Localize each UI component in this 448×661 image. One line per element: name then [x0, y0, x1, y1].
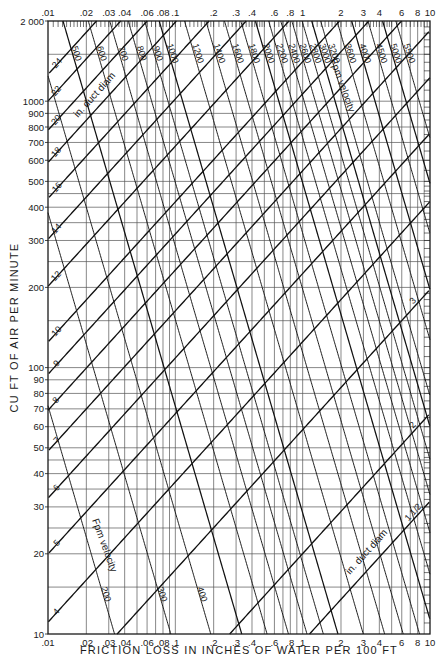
- velocity-line: [128, 21, 307, 634]
- y-tick-label: 600: [28, 155, 44, 166]
- velocity-line: [396, 21, 430, 137]
- x-tick-label-top: 10: [425, 7, 436, 18]
- velocity-line: [185, 21, 364, 634]
- y-tick-label: 60: [33, 421, 44, 432]
- velocity-label: 500: [69, 45, 83, 62]
- annotation-duct-diam-bottom: in. duct diam: [343, 527, 389, 576]
- x-tick-label-top: 2: [338, 7, 343, 18]
- x-tick-label-top: 6: [399, 7, 404, 18]
- velocity-line: [255, 21, 429, 619]
- x-tick-label: 6: [399, 637, 404, 648]
- x-tick-labels-top: .01.02.03.04.06.08.1.2.3.4.6.812346810: [41, 7, 435, 18]
- velocity-label: 4500: [374, 42, 390, 64]
- x-tick-label-top: .3: [232, 7, 240, 18]
- duct-diameter-line: [48, 21, 176, 162]
- velocity-line: [159, 21, 338, 634]
- y-tick-label: 30: [33, 501, 44, 512]
- y-tick-label: 100: [28, 362, 44, 373]
- x-tick-label-top: .02: [80, 7, 93, 18]
- y-tick-label: 80: [33, 388, 44, 399]
- x-tick-label-top: 3: [361, 7, 366, 18]
- y-tick-label: 90: [33, 374, 44, 385]
- duct-diameter-line: [310, 502, 430, 634]
- velocity-label: 4000: [357, 42, 373, 64]
- velocity-label: 300: [155, 585, 169, 602]
- x-tick-label: 10: [425, 637, 436, 648]
- y-tick-labels: 1020304050607080901002003004005006007008…: [20, 16, 48, 640]
- y-tick-label: 700: [28, 137, 44, 148]
- x-axis-label: FRICTION LOSS IN INCHES OF WATER PER 100…: [80, 644, 398, 656]
- annotation-fpm-velocity-top: Fpm velocity: [328, 57, 358, 114]
- velocity-line: [312, 21, 430, 426]
- velocity-label: 1800: [247, 42, 263, 64]
- x-tick-label-top: .03: [102, 7, 115, 18]
- y-tick-label: 2 000: [20, 16, 44, 27]
- velocity-line: [88, 21, 267, 634]
- velocity-line: [48, 76, 211, 634]
- x-tick-label-top: 8: [415, 7, 420, 18]
- y-tick-label: 40: [33, 468, 44, 479]
- y-tick-label: 50: [33, 442, 44, 453]
- velocity-label: 3600: [343, 42, 359, 64]
- y-tick-label: 20: [33, 548, 44, 559]
- x-tick-label: 8: [415, 637, 420, 648]
- y-tick-label: 300: [28, 235, 44, 246]
- x-tick-label-top: 1: [300, 7, 305, 18]
- velocity-label: 1200: [190, 42, 206, 64]
- x-tick-label-top: .6: [270, 7, 278, 18]
- velocity-line: [337, 21, 430, 340]
- velocity-label: 400: [195, 585, 209, 602]
- y-tick-label: 70: [33, 403, 44, 414]
- velocity-line: [110, 21, 289, 634]
- velocity-line: [281, 21, 430, 533]
- y-tick-label: 10: [33, 629, 44, 640]
- x-tick-label-top: 4: [377, 7, 382, 18]
- x-tick-label-top: .1: [171, 7, 179, 18]
- duct-friction-chart: .01.02.03.04.06.08.1.2.3.4.6.812346810 .…: [0, 0, 448, 661]
- velocity-label: 700: [116, 45, 130, 62]
- y-tick-label: 800: [28, 122, 44, 133]
- x-tick-label-top: .06: [140, 7, 153, 18]
- y-tick-label: 900: [28, 108, 44, 119]
- x-tick-label-top: .8: [286, 7, 294, 18]
- velocity-label: 1600: [230, 42, 246, 64]
- y-axis-label: CU FT OF AIR PER MINUTE: [8, 243, 20, 413]
- velocity-line: [241, 21, 420, 634]
- y-tick-label: 400: [28, 202, 44, 213]
- y-tick-label: 200: [28, 282, 44, 293]
- x-tick-label-top: .08: [156, 7, 169, 18]
- velocity-label: 200: [99, 585, 113, 602]
- y-tick-label: 1000: [23, 96, 44, 107]
- x-tick-label-top: .4: [248, 7, 256, 18]
- x-tick-label-top: .2: [210, 7, 218, 18]
- y-tick-label: 500: [28, 176, 44, 187]
- duct-diameter-line: [49, 32, 429, 450]
- velocity-label: 600: [95, 45, 109, 62]
- x-tick-label-top: .04: [118, 7, 131, 18]
- velocity-label: 1000: [165, 42, 181, 64]
